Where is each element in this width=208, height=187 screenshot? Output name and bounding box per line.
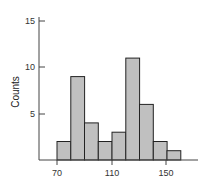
y-tick-label-10: 10: [25, 62, 35, 72]
y-axis-title: Counts: [10, 76, 21, 108]
x-tick-label-70: 70: [52, 168, 62, 178]
x-tick-label-150: 150: [158, 168, 173, 178]
histogram-bar: [98, 142, 112, 161]
histogram-bar: [112, 132, 126, 160]
histogram-bar: [167, 151, 181, 160]
histogram-bar: [153, 142, 167, 161]
histogram-bars: [57, 58, 181, 160]
y-tick-label-15: 15: [25, 16, 35, 26]
histogram-bar: [126, 58, 140, 160]
histogram-bar: [71, 77, 85, 160]
x-tick-label-110: 110: [105, 168, 119, 178]
histogram-bar: [140, 104, 154, 160]
histogram-bar: [85, 123, 99, 160]
histogram-chart: 15 10 5 70 110 150 Counts: [0, 0, 208, 187]
y-tick-label-5: 5: [30, 109, 35, 119]
histogram-bar: [57, 142, 71, 161]
